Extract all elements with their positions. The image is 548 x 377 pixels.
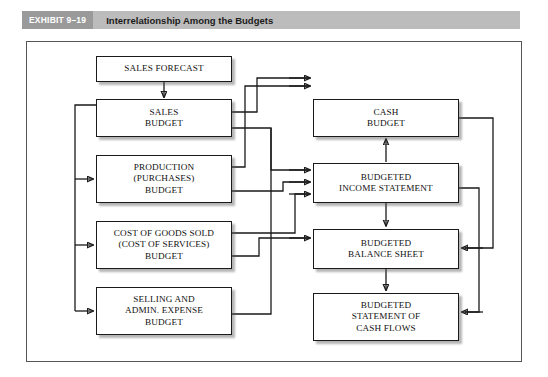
node-cost-of-goods-sold-budget-label: COST OF GOODS SOLD(COST OF SERVICES)BUDG… — [112, 228, 216, 263]
node-budgeted-balance-sheet-label: BUDGETEDBALANCE SHEET — [346, 238, 426, 261]
node-production-budget-label: PRODUCTION(PURCHASES)BUDGET — [132, 162, 197, 197]
node-budgeted-balance-sheet[interactable]: BUDGETEDBALANCE SHEET — [313, 229, 459, 269]
edge-sga-to-cashbudget — [232, 128, 271, 314]
node-selling-admin-expense-budget-label: SELLING ANDADMIN. EXPENSEBUDGET — [123, 294, 205, 329]
edge-incomestmt-to-cashflows — [459, 188, 479, 312]
budget-flowchart-frame: SALES FORECAST SALESBUDGET PRODUCTION(PU… — [26, 41, 522, 362]
edge-salesbudget-to-cashbudget — [232, 78, 310, 112]
exhibit-header: EXHIBIT 9–19 Interrelationship Among the… — [22, 11, 520, 29]
node-cash-budget-label: CASHBUDGET — [365, 107, 407, 130]
node-cost-of-goods-sold-budget[interactable]: COST OF GOODS SOLD(COST OF SERVICES)BUDG… — [96, 221, 232, 269]
node-selling-admin-expense-budget[interactable]: SELLING ANDADMIN. EXPENSEBUDGET — [96, 287, 232, 335]
node-sales-forecast-label: SALES FORECAST — [122, 63, 205, 75]
node-budgeted-income-statement-label: BUDGETEDINCOME STATEMENT — [337, 172, 435, 195]
edge-cashbudget-to-balancesheet — [459, 118, 493, 248]
edge-salesbudget-leftbus — [75, 105, 96, 179]
node-sales-budget-label: SALESBUDGET — [143, 107, 185, 130]
exhibit-title: Interrelationship Among the Budgets — [93, 15, 273, 26]
node-sales-forecast[interactable]: SALES FORECAST — [96, 56, 232, 82]
node-production-budget[interactable]: PRODUCTION(PURCHASES)BUDGET — [96, 155, 232, 203]
node-budgeted-statement-of-cash-flows-label: BUDGETEDSTATEMENT OFCASH FLOWS — [350, 300, 423, 335]
node-budgeted-income-statement[interactable]: BUDGETEDINCOME STATEMENT — [313, 163, 459, 203]
node-cash-budget[interactable]: CASHBUDGET — [313, 99, 459, 137]
exhibit-number-badge: EXHIBIT 9–19 — [22, 11, 93, 29]
node-budgeted-statement-of-cash-flows[interactable]: BUDGETEDSTATEMENT OFCASH FLOWS — [313, 293, 459, 341]
node-sales-budget[interactable]: SALESBUDGET — [96, 99, 232, 137]
